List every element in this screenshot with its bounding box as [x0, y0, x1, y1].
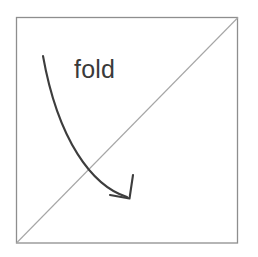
- fold-diagram-figure: fold: [0, 0, 258, 257]
- diagram-canvas: fold: [0, 0, 258, 257]
- fold-label: fold: [74, 55, 115, 83]
